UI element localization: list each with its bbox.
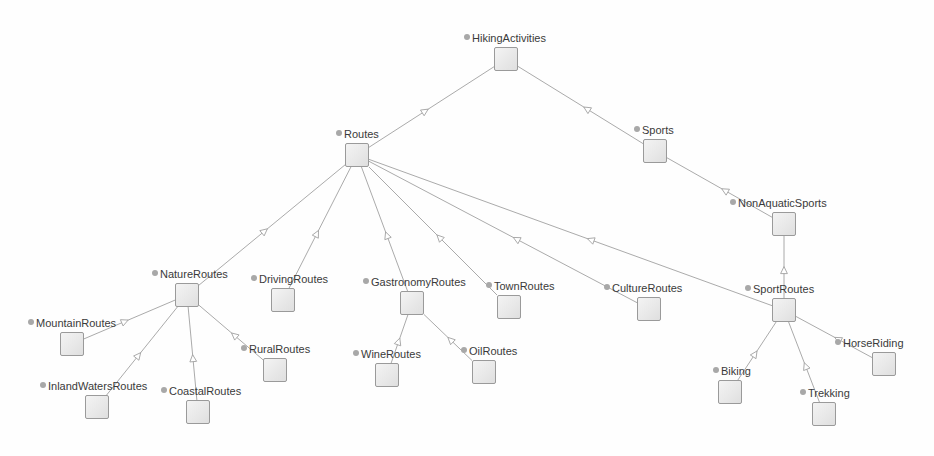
generalization-arrowhead-icon bbox=[513, 237, 521, 243]
class-node-bullet-icon bbox=[464, 34, 470, 40]
generalization-arrowhead-icon bbox=[232, 333, 240, 340]
class-node-box[interactable] bbox=[643, 139, 667, 163]
class-node-label-text: SportRoutes bbox=[753, 283, 814, 295]
class-node-label-text: GastronomyRoutes bbox=[371, 276, 466, 288]
class-node-label: OilRoutes bbox=[461, 345, 517, 357]
generalization-edge bbox=[369, 67, 494, 148]
class-node-box[interactable] bbox=[400, 291, 424, 315]
class-node-bullet-icon bbox=[745, 285, 751, 291]
class-node-label-text: CultureRoutes bbox=[612, 282, 682, 294]
generalization-arrowhead-icon bbox=[120, 320, 128, 326]
class-node-box[interactable] bbox=[85, 395, 109, 419]
generalization-arrowhead-icon bbox=[385, 232, 391, 240]
class-node-label: GastronomyRoutes bbox=[363, 276, 466, 288]
class-node-label: DrivingRoutes bbox=[251, 273, 328, 285]
generalization-arrowhead-icon bbox=[804, 363, 810, 371]
class-node-bullet-icon bbox=[634, 126, 640, 132]
class-node-box[interactable] bbox=[812, 402, 836, 426]
class-node-label: TownRoutes bbox=[486, 280, 555, 292]
class-node-label-text: HikingActivities bbox=[472, 32, 546, 44]
class-node-label: Sports bbox=[634, 124, 674, 136]
class-node-box[interactable] bbox=[271, 288, 295, 312]
class-node-bullet-icon bbox=[161, 387, 167, 393]
class-node-label: NonAquaticSports bbox=[730, 197, 827, 209]
class-node-label: RuralRoutes bbox=[241, 343, 310, 355]
class-node-bullet-icon bbox=[713, 367, 719, 373]
generalization-arrowhead-icon bbox=[260, 229, 268, 236]
class-node-label-text: MountainRoutes bbox=[36, 317, 116, 329]
class-node-bullet-icon bbox=[461, 347, 467, 353]
class-node-bullet-icon bbox=[353, 350, 359, 356]
class-node-label: Biking bbox=[713, 365, 751, 377]
class-node-box[interactable] bbox=[60, 332, 84, 356]
class-node-bullet-icon bbox=[800, 389, 806, 395]
class-node-box[interactable] bbox=[186, 400, 210, 424]
class-node-label-text: Trekking bbox=[808, 387, 850, 399]
class-node-label: NatureRoutes bbox=[152, 268, 228, 280]
class-node-label: HikingActivities bbox=[464, 32, 546, 44]
class-node-box[interactable] bbox=[472, 360, 496, 384]
class-node-label: Routes bbox=[336, 128, 379, 140]
class-node-label: SportRoutes bbox=[745, 283, 814, 295]
ontology-hierarchy-diagram: HikingActivitiesRoutesSportsNonAquaticSp… bbox=[0, 0, 934, 456]
generalization-arrowhead-icon bbox=[420, 109, 428, 116]
class-node-bullet-icon bbox=[251, 275, 257, 281]
class-node-bullet-icon bbox=[604, 284, 610, 290]
class-node-bullet-icon bbox=[835, 339, 841, 345]
class-node-box[interactable] bbox=[497, 295, 521, 319]
generalization-arrowhead-icon bbox=[750, 351, 757, 359]
edge-line bbox=[361, 167, 407, 291]
class-node-bullet-icon bbox=[486, 282, 492, 288]
class-node-bullet-icon bbox=[730, 199, 736, 205]
class-node-label-text: NonAquaticSports bbox=[738, 197, 827, 209]
class-node-label: Trekking bbox=[800, 387, 850, 399]
class-node-label-text: InlandWatersRoutes bbox=[48, 380, 147, 392]
class-node-label: MountainRoutes bbox=[28, 317, 116, 329]
class-node-label: CoastalRoutes bbox=[161, 385, 241, 397]
class-node-box[interactable] bbox=[175, 283, 199, 307]
class-node-bullet-icon bbox=[336, 130, 342, 136]
class-node-box[interactable] bbox=[637, 297, 661, 321]
class-node-label-text: DrivingRoutes bbox=[259, 273, 328, 285]
class-node-label-text: RuralRoutes bbox=[249, 343, 310, 355]
class-node-label: CultureRoutes bbox=[604, 282, 682, 294]
class-node-box[interactable] bbox=[772, 298, 796, 322]
class-node-bullet-icon bbox=[28, 319, 34, 325]
class-node-box[interactable] bbox=[718, 380, 742, 404]
class-node-bullet-icon bbox=[363, 278, 369, 284]
edge-line bbox=[518, 66, 643, 143]
generalization-arrowhead-icon bbox=[190, 355, 197, 362]
class-node-label: WineRoutes bbox=[353, 348, 421, 360]
generalization-edge bbox=[518, 66, 643, 143]
class-node-box[interactable] bbox=[263, 358, 287, 382]
class-node-bullet-icon bbox=[152, 270, 158, 276]
class-node-box[interactable] bbox=[772, 212, 796, 236]
generalization-arrowhead-icon bbox=[394, 338, 400, 346]
class-node-box[interactable] bbox=[494, 47, 518, 71]
generalization-arrowhead-icon bbox=[134, 353, 141, 361]
class-node-label-text: TownRoutes bbox=[494, 280, 555, 292]
class-node-label-text: Routes bbox=[344, 128, 379, 140]
class-node-label-text: WineRoutes bbox=[361, 348, 421, 360]
class-node-box[interactable] bbox=[375, 363, 399, 387]
class-node-bullet-icon bbox=[40, 382, 46, 388]
class-node-label: InlandWatersRoutes bbox=[40, 380, 147, 392]
class-node-label-text: NatureRoutes bbox=[160, 268, 228, 280]
generalization-arrowhead-icon bbox=[312, 230, 318, 238]
generalization-arrowhead-icon bbox=[584, 107, 592, 114]
class-node-bullet-icon bbox=[241, 345, 247, 351]
generalization-arrowhead-icon bbox=[781, 267, 788, 274]
class-node-label-text: Biking bbox=[721, 365, 751, 377]
class-node-label-text: HorseRiding bbox=[843, 337, 904, 349]
generalization-edge bbox=[361, 167, 407, 291]
class-node-label-text: Sports bbox=[642, 124, 674, 136]
generalization-arrowhead-icon bbox=[587, 238, 595, 244]
class-node-box[interactable] bbox=[345, 143, 369, 167]
class-node-box[interactable] bbox=[872, 352, 896, 376]
edge-line bbox=[369, 67, 494, 148]
class-node-label: HorseRiding bbox=[835, 337, 904, 349]
class-node-label-text: OilRoutes bbox=[469, 345, 517, 357]
generalization-arrowhead-icon bbox=[722, 189, 730, 195]
class-node-label-text: CoastalRoutes bbox=[169, 385, 241, 397]
